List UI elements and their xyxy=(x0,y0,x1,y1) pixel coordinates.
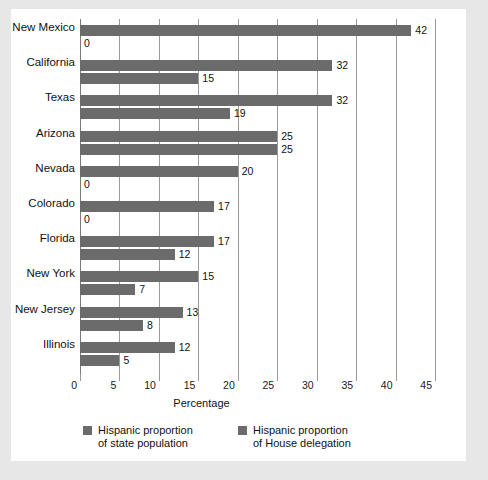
bar-house-delegation xyxy=(80,144,277,155)
x-tick-label-10: 10 xyxy=(144,379,159,391)
bar-pair: 125 xyxy=(80,342,435,368)
plot-area: 4203215321925252001701712157138125 xyxy=(80,19,435,374)
x-axis-ticks: 051015202530354045 xyxy=(80,374,435,396)
legend-swatch-icon xyxy=(238,426,247,435)
bar-house-delegation xyxy=(80,73,198,84)
x-tick-label-35: 35 xyxy=(341,379,356,391)
bar-group-arizona: Arizona xyxy=(11,121,80,147)
bar-pair: 157 xyxy=(80,271,435,297)
bar-value-label-house-delegation: 0 xyxy=(84,37,90,49)
bar-value-label-population: 32 xyxy=(336,94,348,106)
bar-value-label-house-delegation: 5 xyxy=(123,354,129,366)
category-label: New Mexico xyxy=(12,21,75,34)
bar-house-delegation xyxy=(80,108,230,119)
bar-value-label-population: 17 xyxy=(218,200,230,212)
bar-population xyxy=(80,307,183,318)
x-tick-label-0: 0 xyxy=(71,379,80,391)
x-tick-35 xyxy=(356,374,357,381)
x-tick-0 xyxy=(80,374,81,381)
bar-group-new-york: New York xyxy=(11,261,80,287)
x-tick-label-25: 25 xyxy=(263,379,278,391)
bar-pair: 2525 xyxy=(80,131,435,157)
category-label: New Jersey xyxy=(15,303,75,316)
bar-pair: 170 xyxy=(80,201,435,227)
x-tick-label-45: 45 xyxy=(420,379,435,391)
bar-value-label-population: 12 xyxy=(179,341,191,353)
category-label: New York xyxy=(26,267,75,280)
bar-house-delegation xyxy=(80,355,119,366)
category-label: Colorado xyxy=(28,197,75,210)
bar-population xyxy=(80,131,277,142)
x-tick-5 xyxy=(119,374,120,381)
bar-house-delegation xyxy=(80,249,175,260)
gridline-45 xyxy=(435,19,436,374)
category-label: Illinois xyxy=(43,338,75,351)
bar-group-nevada: Nevada xyxy=(11,156,80,182)
bar-population xyxy=(80,95,332,106)
bar-pair: 138 xyxy=(80,307,435,333)
bar-group-new-jersey: New Jersey xyxy=(11,297,80,323)
bar-population xyxy=(80,271,198,282)
bar-value-label-population: 20 xyxy=(242,165,254,177)
x-tick-45 xyxy=(435,374,436,381)
x-axis-title: Percentage xyxy=(80,397,435,409)
bar-group-new-mexico: New Mexico xyxy=(11,15,80,41)
bar-pair: 1712 xyxy=(80,236,435,262)
bar-value-label-population: 42 xyxy=(415,24,427,36)
x-tick-label-30: 30 xyxy=(302,379,317,391)
bar-value-label-population: 32 xyxy=(336,59,348,71)
bar-value-label-population: 17 xyxy=(218,235,230,247)
bar-pair: 3215 xyxy=(80,60,435,86)
legend-swatch-icon xyxy=(83,426,92,435)
bar-value-label-house-delegation: 19 xyxy=(234,107,246,119)
bar-value-label-house-delegation: 15 xyxy=(202,72,214,84)
bar-population xyxy=(80,342,175,353)
bar-value-label-house-delegation: 7 xyxy=(139,283,145,295)
bar-group-texas: Texas xyxy=(11,85,80,111)
bar-group-colorado: Colorado xyxy=(11,191,80,217)
bar-group-california: California xyxy=(11,50,80,76)
bar-pair: 420 xyxy=(80,25,435,51)
x-tick-30 xyxy=(317,374,318,381)
x-tick-label-15: 15 xyxy=(184,379,199,391)
bar-house-delegation xyxy=(80,284,135,295)
bar-value-label-house-delegation: 0 xyxy=(84,213,90,225)
bar-value-label-population: 13 xyxy=(187,306,199,318)
bar-population xyxy=(80,25,411,36)
category-label: Arizona xyxy=(36,127,75,140)
bar-pair: 3219 xyxy=(80,95,435,121)
x-tick-15 xyxy=(198,374,199,381)
legend-item-house-delegation: Hispanic proportion of House delegation xyxy=(238,424,351,450)
x-tick-25 xyxy=(277,374,278,381)
bar-group-illinois: Illinois xyxy=(11,332,80,358)
x-axis-title-label: Percentage xyxy=(173,397,229,409)
x-tick-label-40: 40 xyxy=(381,379,396,391)
x-tick-40 xyxy=(396,374,397,381)
category-label: Nevada xyxy=(35,162,75,175)
category-label: Florida xyxy=(40,232,75,245)
x-tick-20 xyxy=(238,374,239,381)
legend-item-state-population: Hispanic proportion of state population xyxy=(83,424,193,450)
bar-value-label-population: 25 xyxy=(281,130,293,142)
bar-population xyxy=(80,236,214,247)
bar-value-label-house-delegation: 25 xyxy=(281,143,293,155)
bar-population xyxy=(80,60,332,71)
bar-population xyxy=(80,166,238,177)
bar-value-label-house-delegation: 12 xyxy=(179,248,191,260)
chart-legend: Hispanic proportion of state population … xyxy=(83,424,453,456)
bar-pair: 200 xyxy=(80,166,435,192)
screenshot-root: 4203215321925252001701712157138125 05101… xyxy=(0,0,488,480)
bar-population xyxy=(80,201,214,212)
legend-label-state-population: Hispanic proportion of state population xyxy=(98,424,193,450)
category-label: California xyxy=(26,56,75,69)
bar-value-label-house-delegation: 0 xyxy=(84,178,90,190)
x-tick-label-20: 20 xyxy=(223,379,238,391)
category-label: Texas xyxy=(45,91,75,104)
bar-group-florida: Florida xyxy=(11,226,80,252)
bar-value-label-house-delegation: 8 xyxy=(147,319,153,331)
legend-label-house-delegation: Hispanic proportion of House delegation xyxy=(253,424,351,450)
x-tick-label-5: 5 xyxy=(111,379,120,391)
bar-value-label-population: 15 xyxy=(202,270,214,282)
chart-card: 4203215321925252001701712157138125 05101… xyxy=(11,9,466,461)
bar-house-delegation xyxy=(80,320,143,331)
